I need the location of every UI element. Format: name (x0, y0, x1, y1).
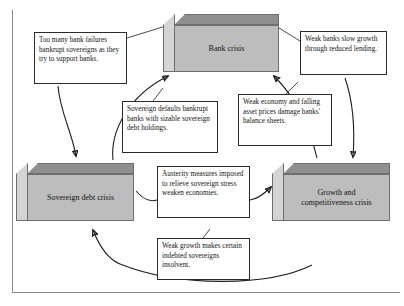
node-bank-crisis[interactable]: Bank crisis (163, 14, 279, 72)
leader-weak-grow (203, 229, 210, 238)
node-sovereign-debt-crisis-top-face (27, 163, 134, 174)
callout-too-many-bank-failures[interactable]: Too many bank failures bankrupt sovereig… (34, 32, 127, 84)
arrow-bank-to-growth (345, 78, 354, 157)
node-sovereign-debt-crisis-front-face: Sovereign debt crisis (27, 174, 134, 221)
node-growth-competitiveness-crisis[interactable]: Growth and competitiveness crisis (272, 163, 390, 221)
node-growth-competitiveness-crisis-label-line2: competitiveness crisis (301, 198, 371, 208)
node-bank-crisis-front-face: Bank crisis (174, 25, 279, 72)
node-sovereign-debt-crisis[interactable]: Sovereign debt crisis (16, 163, 134, 221)
node-growth-competitiveness-crisis-top-face (283, 163, 390, 174)
callout-austerity-weakens-economies[interactable]: Austerity measures imposed to relieve so… (157, 166, 250, 218)
node-bank-crisis-label: Bank crisis (209, 44, 245, 54)
callout-weak-growth-insolvent-sovereigns[interactable]: Weak growth makes certain indebted sover… (157, 238, 250, 280)
callout-sovereign-defaults-bankrupt-banks[interactable]: Sovereign defaults bankrupt banks with s… (122, 101, 218, 153)
leader-too-many (127, 26, 166, 38)
node-growth-competitiveness-crisis-front-face: Growth and competitiveness crisis (283, 174, 390, 221)
callout-weak-banks-slow-growth[interactable]: Weak banks slow growth through reduced l… (300, 31, 387, 75)
arrow-bank-to-sovereign (58, 86, 76, 156)
node-sovereign-debt-crisis-label: Sovereign debt crisis (47, 193, 114, 203)
leader-weak-econ (286, 82, 298, 94)
diagram-canvas: Bank crisis Sovereign debt crisis Growth… (0, 0, 404, 306)
arrow-sovereign-to-growth-left (136, 191, 157, 201)
node-bank-crisis-top-face (174, 14, 279, 25)
leader-weak-banks (279, 28, 300, 41)
callout-weak-economy-damages-banks[interactable]: Weak economy and falling asset prices da… (238, 94, 332, 146)
arrow-sovereign-to-growth-right (250, 187, 271, 200)
leader-sov-def (153, 88, 163, 101)
node-growth-competitiveness-crisis-label-line1: Growth and (318, 188, 356, 198)
